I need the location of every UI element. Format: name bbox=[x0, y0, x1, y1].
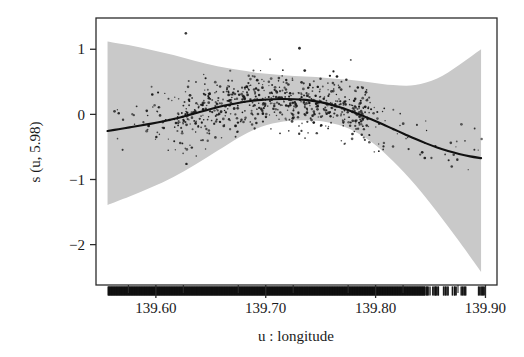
data-point bbox=[285, 88, 287, 90]
data-point bbox=[274, 86, 277, 89]
data-point bbox=[336, 75, 339, 78]
data-point bbox=[267, 105, 269, 107]
data-point bbox=[191, 146, 193, 148]
data-point bbox=[283, 101, 285, 103]
data-point bbox=[265, 113, 268, 116]
data-point bbox=[320, 125, 322, 127]
rug-plot-group bbox=[108, 287, 486, 296]
data-point bbox=[444, 154, 446, 156]
data-point bbox=[354, 119, 356, 121]
data-point bbox=[357, 86, 359, 88]
data-point bbox=[298, 133, 300, 135]
data-point bbox=[257, 89, 260, 92]
data-point bbox=[262, 112, 265, 115]
data-point bbox=[338, 84, 340, 86]
data-point bbox=[408, 148, 410, 150]
data-point bbox=[233, 108, 236, 111]
data-point bbox=[242, 91, 244, 93]
data-point bbox=[364, 111, 366, 113]
data-point bbox=[316, 105, 318, 107]
data-point bbox=[215, 115, 217, 117]
data-point bbox=[332, 70, 334, 72]
data-point bbox=[231, 80, 233, 82]
data-point bbox=[182, 152, 184, 154]
data-point bbox=[235, 136, 237, 138]
data-point bbox=[253, 127, 255, 129]
data-point bbox=[205, 128, 207, 130]
data-point bbox=[349, 104, 351, 106]
rug-tick bbox=[461, 287, 462, 296]
data-point bbox=[205, 77, 207, 79]
data-point bbox=[185, 91, 187, 93]
scatter-smoother-plot: 10−1−2 139.60139.70139.80139.90 u : long… bbox=[0, 0, 524, 357]
rug-tick bbox=[427, 287, 428, 296]
data-point bbox=[234, 124, 237, 127]
data-point bbox=[397, 133, 398, 134]
data-point bbox=[318, 116, 320, 118]
data-point bbox=[392, 109, 394, 111]
data-point bbox=[204, 102, 206, 104]
data-point bbox=[285, 104, 287, 106]
data-point bbox=[162, 127, 164, 129]
data-point bbox=[207, 119, 209, 121]
data-point bbox=[342, 125, 344, 127]
data-point bbox=[203, 93, 205, 95]
data-point bbox=[425, 120, 427, 122]
data-point bbox=[264, 105, 266, 107]
data-point bbox=[464, 140, 466, 142]
data-point bbox=[302, 88, 305, 91]
data-point bbox=[201, 122, 203, 124]
data-point bbox=[268, 85, 269, 86]
data-point bbox=[145, 110, 148, 113]
data-point bbox=[180, 127, 182, 129]
rug-tick bbox=[482, 287, 483, 296]
data-point bbox=[191, 97, 193, 99]
data-point bbox=[136, 105, 138, 107]
data-point bbox=[277, 109, 279, 111]
data-point bbox=[363, 136, 365, 138]
data-point bbox=[251, 123, 253, 125]
data-point bbox=[349, 86, 351, 88]
data-point bbox=[201, 104, 204, 107]
data-point bbox=[221, 102, 223, 104]
data-point bbox=[256, 108, 258, 110]
data-point bbox=[323, 97, 326, 100]
data-point bbox=[363, 128, 365, 130]
x-axis-tick-label: 139.60 bbox=[135, 300, 176, 316]
data-point bbox=[313, 110, 316, 113]
data-point bbox=[254, 91, 256, 93]
data-point bbox=[345, 100, 347, 102]
data-point bbox=[344, 118, 346, 120]
data-point bbox=[228, 118, 230, 120]
data-point bbox=[249, 121, 251, 123]
data-point bbox=[456, 158, 459, 161]
data-point bbox=[340, 113, 342, 115]
data-point bbox=[355, 106, 358, 109]
data-point bbox=[205, 148, 207, 150]
data-point bbox=[361, 97, 364, 100]
data-point bbox=[207, 140, 209, 142]
data-point bbox=[365, 91, 366, 92]
y-axis-title: s (u, 5.98) bbox=[27, 122, 44, 183]
data-point bbox=[276, 115, 277, 116]
rug-tick bbox=[443, 287, 444, 296]
data-point bbox=[399, 113, 401, 115]
data-point bbox=[203, 100, 205, 102]
data-point bbox=[455, 146, 456, 147]
data-point bbox=[474, 128, 476, 130]
data-point bbox=[312, 121, 315, 124]
data-point bbox=[229, 128, 231, 130]
data-point bbox=[279, 90, 281, 92]
data-point bbox=[237, 105, 239, 107]
data-point bbox=[290, 95, 292, 97]
data-point bbox=[198, 105, 200, 107]
data-point bbox=[373, 151, 375, 153]
data-point bbox=[320, 96, 321, 97]
data-point bbox=[244, 97, 246, 99]
rug-tick bbox=[454, 287, 455, 296]
data-point bbox=[227, 79, 229, 81]
data-point bbox=[254, 93, 256, 95]
data-point bbox=[168, 98, 170, 100]
data-point bbox=[370, 108, 372, 110]
data-point bbox=[338, 86, 340, 88]
